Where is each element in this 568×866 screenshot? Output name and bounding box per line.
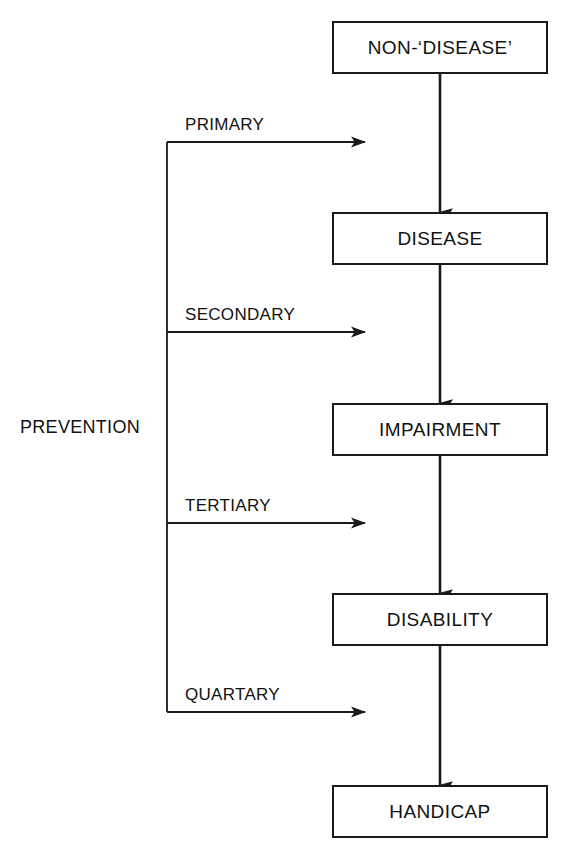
node-label-impairment: IMPAIRMENT xyxy=(379,420,501,439)
node-label-disease: DISEASE xyxy=(397,229,482,248)
node-label-non-disease: NON-‘DISEASE’ xyxy=(368,38,513,57)
branch-label-quartary: QUARTARY xyxy=(185,686,280,703)
diagram-canvas: NON-‘DISEASE’DISEASEIMPAIRMENTDISABILITY… xyxy=(0,0,568,866)
node-disease: DISEASE xyxy=(332,212,548,265)
branch-label-primary: PRIMARY xyxy=(185,116,264,133)
branch-label-secondary: SECONDARY xyxy=(185,306,295,323)
branch-label-tertiary: TERTIARY xyxy=(185,497,271,514)
node-label-handicap: HANDICAP xyxy=(389,802,490,821)
node-handicap: HANDICAP xyxy=(332,785,548,838)
node-impairment: IMPAIRMENT xyxy=(332,403,548,456)
prevention-label: PREVENTION xyxy=(20,418,140,436)
node-non-disease: NON-‘DISEASE’ xyxy=(332,21,548,74)
node-disability: DISABILITY xyxy=(332,593,548,646)
node-label-disability: DISABILITY xyxy=(387,610,493,629)
